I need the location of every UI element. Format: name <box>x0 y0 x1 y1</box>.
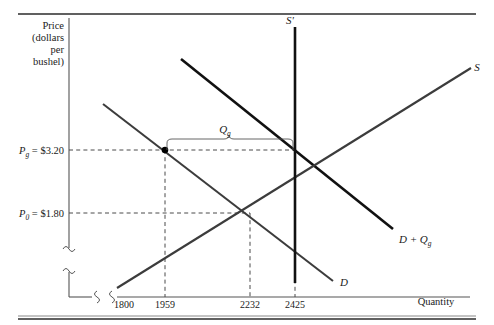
curve-demand-plus-qg <box>181 59 393 229</box>
y-axis-title-line-1: Price <box>42 20 64 31</box>
demand-plus-qg-base: D + Q <box>398 233 428 245</box>
y-axis-title-line-2: (dollars <box>32 32 64 44</box>
qg-subscript: g <box>227 129 231 138</box>
x-tick-label-1959: 1959 <box>155 299 175 310</box>
curve-label-supply-restricted: S' <box>286 14 295 26</box>
curve-demand <box>103 104 333 281</box>
market-price-amount: $1.80 <box>40 208 64 219</box>
label-market-price: P0 = $1.80 <box>18 208 64 222</box>
x-axis-title: Quantity <box>418 296 455 307</box>
annotation-government-purchases: Qg <box>219 123 231 138</box>
chart-svg: Price (dollars per bushel) Quantity Pg =… <box>0 0 494 325</box>
demand-plus-qg-subscript: g <box>428 239 432 248</box>
y-axis-title-line-4: bushel) <box>33 56 64 68</box>
support-price-value: = <box>29 145 40 156</box>
x-tick-label-2232: 2232 <box>240 299 260 310</box>
x-tick-label-2425: 2425 <box>285 299 305 310</box>
qg-base: Q <box>219 123 227 135</box>
supply-demand-figure: Price (dollars per bushel) Quantity Pg =… <box>0 0 494 325</box>
curve-label-demand-plus-qg: D + Qg <box>398 233 432 248</box>
support-price-amount: $3.20 <box>40 145 64 156</box>
x-tick-label-1800: 1800 <box>114 299 134 310</box>
curve-label-demand: D <box>339 276 348 288</box>
x-axis-break-mark-left <box>95 291 100 303</box>
y-axis-title-line-3: per <box>51 44 65 55</box>
label-support-price: Pg = $3.20 <box>18 145 64 159</box>
market-price-equals: = <box>29 208 40 219</box>
curve-label-supply: S <box>474 61 480 73</box>
